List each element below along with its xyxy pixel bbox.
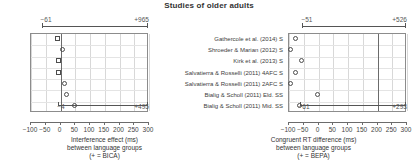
axis-tick-label: −100	[281, 126, 296, 133]
data-point	[62, 81, 67, 86]
axis-tick	[89, 122, 90, 125]
axis-tick-label: −50	[39, 126, 50, 133]
axis-tick	[391, 122, 392, 125]
axis-tick-label: 200	[371, 126, 382, 133]
gridline	[149, 34, 150, 111]
axis-tick	[303, 122, 304, 125]
axis-tick	[148, 122, 149, 125]
axis-tick	[74, 122, 75, 125]
axis-tick	[332, 122, 333, 125]
right-axis-label-line3: (+ = BEPA)	[209, 152, 418, 161]
panel-left: −61 +965 −4 +495 −100−500501001502002503…	[0, 0, 209, 163]
row-gridline	[31, 90, 147, 91]
data-point	[55, 36, 60, 41]
bracket-label-left: −4	[57, 103, 64, 110]
study-label: Gathercole et al. (2014) S	[214, 36, 283, 42]
row-gridline	[289, 68, 405, 69]
row-gridline	[31, 45, 147, 46]
figure-container: Studies of older adults −61 +965 −4 +495…	[0, 0, 418, 163]
data-point	[288, 81, 293, 86]
left-plot-area	[30, 33, 148, 112]
row-gridline	[289, 90, 405, 91]
bracket-label-right: +526	[392, 16, 407, 23]
reference-line	[378, 34, 379, 111]
study-label: Salvatierra & Rosselli (2011) 2AFC S	[185, 81, 283, 87]
bracket-bar	[42, 26, 148, 27]
axis-tick-label: 200	[113, 126, 124, 133]
axis-tick	[377, 122, 378, 125]
left-axis-label-line3: (+ = BICA)	[0, 152, 209, 161]
gridline	[407, 34, 408, 111]
axis-tick	[347, 122, 348, 125]
row-gridline	[289, 79, 405, 80]
axis-tick	[60, 122, 61, 125]
axis-tick	[45, 122, 46, 125]
right-bottom-bracket: −61 +293	[300, 101, 406, 111]
right-top-bracket: −51 +526	[302, 18, 406, 28]
data-point	[64, 92, 69, 97]
axis-tick	[30, 122, 31, 125]
axis-tick	[362, 122, 363, 125]
axis-tick-label: −50	[297, 126, 308, 133]
reference-line	[61, 34, 62, 111]
bracket-label-right: +965	[134, 16, 149, 23]
study-label: Kirk et al. (2013) S	[233, 58, 283, 64]
data-point	[56, 70, 61, 75]
bracket-tick-right	[405, 23, 406, 28]
row-gridline	[289, 45, 405, 46]
left-top-bracket: −61 +965	[42, 18, 148, 28]
study-label: Bialig & Scholl (2011) Eld. SS	[204, 92, 283, 98]
bracket-bar	[302, 26, 406, 27]
axis-tick	[104, 122, 105, 125]
axis-tick-label: 100	[342, 126, 353, 133]
axis-tick-label: 0	[58, 126, 62, 133]
axis-tick-label: −100	[23, 126, 38, 133]
data-point	[56, 58, 61, 63]
data-point	[293, 70, 298, 75]
bracket-label-right: +495	[134, 103, 149, 110]
bracket-bar	[300, 105, 406, 106]
row-gridline	[289, 57, 405, 58]
data-point	[315, 92, 320, 97]
data-point	[288, 47, 293, 52]
bracket-tick-left	[42, 23, 43, 28]
axis-tick-label: 250	[386, 126, 397, 133]
bracket-tick-right	[147, 23, 148, 28]
data-point	[297, 103, 302, 108]
data-point	[293, 36, 298, 41]
bracket-label-left: −51	[301, 16, 312, 23]
axis-tick-label: 150	[356, 126, 367, 133]
bracket-label-right: +293	[392, 103, 407, 110]
axis-tick	[406, 122, 407, 125]
axis-tick-label: 50	[71, 126, 78, 133]
axis-tick-label: 100	[84, 126, 95, 133]
study-label: Bialig & Scholl (2011) Mid. SS	[203, 103, 283, 109]
axis-tick-label: 300	[143, 126, 154, 133]
axis-tick-label: 250	[128, 126, 139, 133]
row-gridline	[31, 79, 147, 80]
axis-tick-label: 0	[316, 126, 320, 133]
axis-tick-label: 50	[329, 126, 336, 133]
data-point	[60, 47, 65, 52]
axis-tick	[318, 122, 319, 125]
bracket-label-left: −61	[41, 16, 52, 23]
bracket-tick-left	[302, 23, 303, 28]
row-gridline	[31, 57, 147, 58]
row-gridline	[31, 68, 147, 69]
axis-tick-label: 300	[401, 126, 412, 133]
axis-tick	[288, 122, 289, 125]
axis-tick-label: 150	[98, 126, 109, 133]
axis-tick	[133, 122, 134, 125]
study-label: Salvatierra & Rosselli (2011) 4AFC S	[185, 70, 283, 76]
study-label: Shroeder & Marian (2012) S	[208, 47, 283, 53]
axis-tick	[119, 122, 120, 125]
right-plot-area	[288, 33, 406, 112]
